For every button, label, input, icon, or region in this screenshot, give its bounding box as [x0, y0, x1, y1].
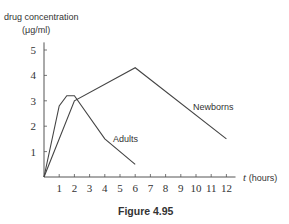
- y-axis-label: drug concentration: [4, 12, 79, 22]
- x-tick-label: 4: [102, 182, 108, 194]
- x-tick-label: 8: [163, 182, 169, 194]
- x-tick-label: 11: [206, 182, 217, 194]
- x-tick-label: 12: [221, 182, 232, 194]
- x-tick-label: 5: [117, 182, 123, 194]
- y-tick-label: 1: [31, 146, 37, 158]
- x-tick-label: 3: [87, 182, 93, 194]
- series-line-newborns: [44, 68, 226, 177]
- y-tick-label: 5: [31, 44, 37, 56]
- y-tick-label: 4: [31, 69, 37, 81]
- x-tick-label: 10: [191, 182, 203, 194]
- x-axis-label: t (hours): [243, 171, 277, 183]
- x-tick-label: 1: [56, 182, 62, 194]
- x-tick-label: 2: [72, 182, 78, 194]
- x-tick-label: 9: [178, 182, 184, 194]
- y-tick-label: 3: [31, 95, 37, 107]
- chart: 12345678910111212345drug concentration(μ…: [0, 0, 289, 224]
- series-label-newborns: Newborns: [193, 102, 234, 112]
- figure-caption: Figure 4.95: [118, 205, 174, 217]
- series-label-adults: Adults: [113, 134, 139, 144]
- y-tick-label: 2: [31, 120, 37, 132]
- x-tick-label: 6: [132, 182, 138, 194]
- x-tick-label: 7: [148, 182, 154, 194]
- y-axis-unit: (μg/ml): [22, 25, 50, 35]
